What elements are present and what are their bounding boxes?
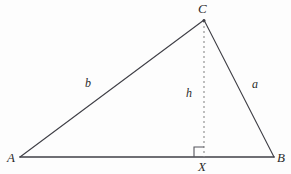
vertex-label-c: C xyxy=(198,2,207,15)
right-angle-square-icon xyxy=(194,147,204,157)
triangle-diagram-canvas xyxy=(0,0,291,174)
side-label-h: h xyxy=(186,87,192,99)
vertex-label-b: B xyxy=(277,151,285,164)
side-label-a: a xyxy=(252,78,258,90)
vertex-label-a: A xyxy=(7,151,15,164)
triangle-side-b-ac xyxy=(20,20,204,157)
side-label-b: b xyxy=(85,77,91,89)
vertex-dot-c xyxy=(203,19,206,22)
geometry-figure: A B C X b a h xyxy=(0,0,291,174)
vertex-label-x: X xyxy=(198,160,206,173)
triangle-side-a-cb xyxy=(204,20,274,157)
